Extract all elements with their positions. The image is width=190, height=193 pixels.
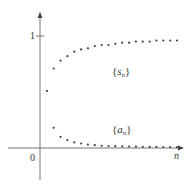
data-point — [162, 146, 164, 148]
data-point — [128, 42, 130, 44]
data-point — [94, 45, 96, 47]
data-point — [176, 39, 178, 41]
data-point — [80, 48, 82, 50]
data-point — [53, 127, 55, 129]
data-point — [59, 136, 61, 138]
data-point — [66, 55, 68, 57]
data-point — [135, 146, 137, 148]
data-point — [46, 90, 48, 92]
data-point — [87, 144, 89, 146]
data-point — [155, 39, 157, 41]
data-point — [114, 43, 116, 45]
data-point — [94, 144, 96, 146]
origin-label: 0 — [30, 152, 35, 163]
data-point — [142, 146, 144, 148]
data-point — [107, 44, 109, 46]
data-point — [101, 44, 103, 46]
data-point — [135, 41, 137, 43]
data-point — [107, 145, 109, 147]
data-point — [149, 41, 151, 43]
data-point — [169, 146, 171, 148]
sequence-chart: 1 0 n {sn} {an} — [0, 0, 190, 193]
data-point — [128, 145, 130, 147]
data-point — [121, 145, 123, 147]
data-point — [73, 141, 75, 143]
data-point — [87, 47, 89, 49]
data-point — [155, 146, 157, 148]
data-point — [59, 60, 61, 62]
data-point — [80, 142, 82, 144]
data-point — [73, 51, 75, 53]
data-point — [149, 146, 151, 148]
x-axis-label: n — [174, 150, 179, 161]
data-point — [53, 67, 55, 69]
s-n-label: {sn} — [112, 65, 130, 79]
data-point — [176, 146, 178, 148]
data-point — [162, 39, 164, 41]
data-point — [66, 139, 68, 141]
a-n-label: {an} — [112, 123, 132, 137]
data-point — [169, 39, 171, 41]
y-tick-label: 1 — [30, 30, 35, 41]
data-point — [114, 145, 116, 147]
data-point — [121, 42, 123, 44]
data-point — [142, 41, 144, 43]
data-point — [101, 145, 103, 147]
